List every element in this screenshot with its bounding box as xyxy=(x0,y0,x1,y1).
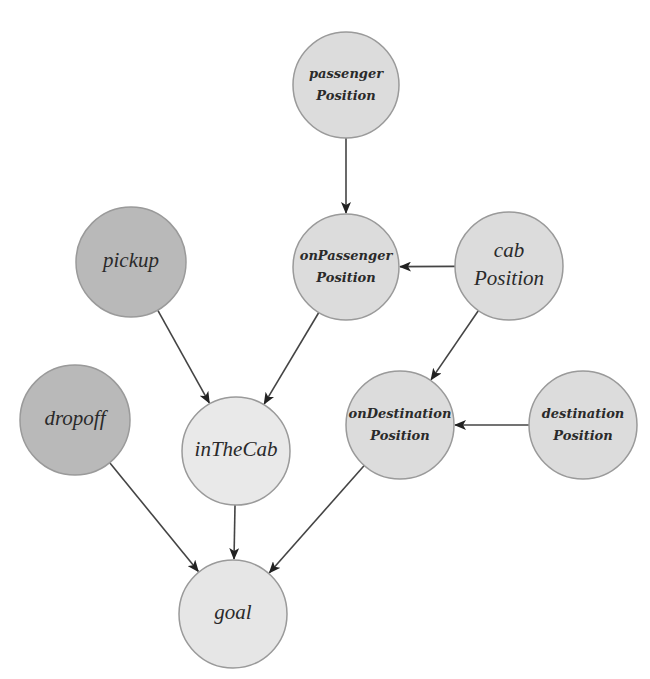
node-cabPosition: cabPosition xyxy=(455,212,563,320)
edge-dropoff-to-goal xyxy=(110,463,199,572)
node-label: Position xyxy=(552,428,612,443)
edges-layer xyxy=(110,138,529,573)
node-onPassengerPosition: onPassengerPosition xyxy=(293,214,399,320)
node-circle xyxy=(346,371,454,479)
node-circle xyxy=(529,371,637,479)
node-pickup: pickup xyxy=(76,207,186,317)
node-label: inTheCab xyxy=(195,437,278,461)
node-onDestinationPosition: onDestinationPosition xyxy=(346,371,454,479)
node-inTheCab: inTheCab xyxy=(182,397,290,505)
node-label: onPassenger xyxy=(300,248,394,263)
edge-onDestinationPosition-to-goal xyxy=(269,465,364,572)
node-label: Position xyxy=(315,270,375,285)
node-dropoff: dropoff xyxy=(20,365,130,475)
edge-cabPosition-to-onDestinationPosition xyxy=(431,311,478,380)
node-label: destination xyxy=(542,406,625,421)
node-label: Position xyxy=(315,88,375,103)
node-label: goal xyxy=(214,600,252,624)
bayesian-network-diagram: passengerPositiononPassengerPositioncabP… xyxy=(0,0,650,679)
node-label: Position xyxy=(473,266,544,290)
node-label: Position xyxy=(369,428,429,443)
edge-pickup-to-inTheCab xyxy=(158,310,210,403)
node-label: passenger xyxy=(309,66,384,81)
node-label: dropoff xyxy=(44,406,108,430)
node-goal: goal xyxy=(179,560,287,668)
nodes-layer: passengerPositiononPassengerPositioncabP… xyxy=(20,32,637,668)
node-circle xyxy=(293,214,399,320)
edge-inTheCab-to-goal xyxy=(234,505,235,559)
node-circle xyxy=(293,32,399,138)
node-label: pickup xyxy=(101,248,159,272)
node-label: cab xyxy=(494,238,524,262)
node-label: onDestination xyxy=(349,406,452,421)
node-destinationPosition: destinationPosition xyxy=(529,371,637,479)
node-passengerPosition: passengerPosition xyxy=(293,32,399,138)
edge-onPassengerPosition-to-inTheCab xyxy=(264,312,319,403)
